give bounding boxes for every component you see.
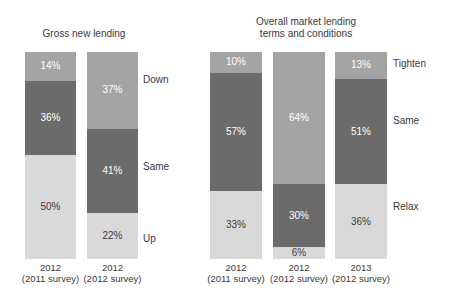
chart-title-market-terms: Overall market lending terms and conditi… bbox=[216, 16, 396, 40]
bar-segment-same: 30% bbox=[273, 184, 325, 246]
x-axis-label-line: 2012 bbox=[68, 262, 158, 273]
stacked-bar-2012--2012-survey-: 37%41%22% bbox=[87, 52, 138, 259]
bar-segment-tighten: 10% bbox=[210, 52, 262, 73]
x-axis-label-line: (2012 survey) bbox=[68, 273, 158, 284]
stacked-bar-2012--2011-survey-: 14%36%50% bbox=[25, 52, 76, 259]
stacked-bar-2013--2012-survey-: 13%51%36% bbox=[335, 52, 387, 259]
legend-label-relax: Relax bbox=[393, 201, 419, 213]
legend-label-down: Down bbox=[143, 74, 169, 86]
segment-value-label: 51% bbox=[351, 127, 371, 137]
bar-segment-down: 14% bbox=[25, 52, 76, 81]
x-axis-label: 2013(2012 survey) bbox=[316, 262, 406, 284]
bar-segment-up: 22% bbox=[87, 213, 138, 259]
bar-segment-tighten: 13% bbox=[335, 52, 387, 79]
segment-value-label: 36% bbox=[40, 113, 60, 123]
segment-value-label: 6% bbox=[292, 248, 306, 258]
stacked-bar-2012--2012-survey-: 64%30%6% bbox=[273, 52, 325, 259]
chart-title-line: Gross new lending bbox=[4, 28, 164, 40]
bar-segment-same: 41% bbox=[87, 129, 138, 214]
bar-segment-same: 57% bbox=[210, 73, 262, 191]
legend-label-same: Same bbox=[143, 161, 169, 173]
chart-title-line: Overall market lending bbox=[216, 16, 396, 28]
bar-segment-relax: 36% bbox=[335, 184, 387, 259]
bar-segment-relax: 33% bbox=[210, 191, 262, 259]
segment-value-label: 41% bbox=[102, 166, 122, 176]
segment-value-label: 30% bbox=[289, 211, 309, 221]
segment-value-label: 36% bbox=[351, 217, 371, 227]
chart-title-gross-new-lending: Gross new lending bbox=[4, 28, 164, 40]
bar-segment-down: 37% bbox=[87, 52, 138, 129]
x-axis-label-line: 2013 bbox=[316, 262, 406, 273]
segment-value-label: 64% bbox=[289, 113, 309, 123]
segment-value-label: 33% bbox=[226, 220, 246, 230]
legend-label-tighten: Tighten bbox=[393, 58, 426, 70]
segment-value-label: 10% bbox=[226, 57, 246, 67]
segment-value-label: 14% bbox=[40, 61, 60, 71]
bar-segment-same: 36% bbox=[25, 81, 76, 156]
bar-segment-up: 50% bbox=[25, 155, 76, 259]
bar-segment-relax: 6% bbox=[273, 247, 325, 259]
segment-value-label: 37% bbox=[102, 85, 122, 95]
segment-value-label: 22% bbox=[102, 231, 122, 241]
segment-value-label: 57% bbox=[226, 127, 246, 137]
legend-label-up: Up bbox=[143, 233, 156, 245]
bar-segment-tighten: 64% bbox=[273, 52, 325, 184]
chart-canvas: Gross new lending Overall market lending… bbox=[0, 0, 452, 302]
segment-value-label: 13% bbox=[351, 60, 371, 70]
stacked-bar-2012--2011-survey-: 10%57%33% bbox=[210, 52, 262, 259]
x-axis-label-line: (2012 survey) bbox=[316, 273, 406, 284]
segment-value-label: 50% bbox=[40, 202, 60, 212]
bar-segment-same: 51% bbox=[335, 79, 387, 185]
legend-label-same: Same bbox=[393, 115, 419, 127]
x-axis-label: 2012(2012 survey) bbox=[68, 262, 158, 284]
chart-title-line: terms and conditions bbox=[216, 28, 396, 40]
